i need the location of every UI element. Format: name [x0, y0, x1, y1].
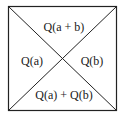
region-label-top: Q(a + b) [44, 21, 85, 33]
parallelogram-law-diagram: Q(a + b) Q(a) Q(b) Q(a) + Q(b) [0, 0, 124, 117]
region-label-right: Q(b) [81, 55, 104, 67]
region-label-left: Q(a) [21, 55, 43, 67]
region-label-bottom: Q(a) + Q(b) [35, 89, 92, 101]
